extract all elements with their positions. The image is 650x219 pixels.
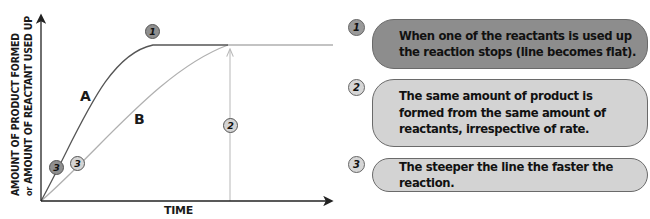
note-2-number-badge: 2 [348,79,365,96]
note-2-text: The same amount of product is formed fro… [372,79,648,147]
marker-2: 2 [223,118,238,133]
y-axis-label: AMOUNT OF PRODUCT FORMED or AMOUNT OF RE… [4,6,40,206]
note-3: 3 The steeper the line the faster the re… [348,158,648,192]
note-1: 1 When one of the reactants is used up t… [348,19,648,69]
y-axis-label-line2: AMOUNT OF REACTANT USED UP [22,16,34,187]
note-3-number-badge: 3 [348,156,365,173]
marker-3-curve-b: 3 [70,156,85,171]
note-3-text: The steeper the line the faster the reac… [372,158,648,192]
marker-3-curve-a: 3 [49,160,64,175]
y-axis-label-line1: AMOUNT OF PRODUCT FORMED [9,16,22,196]
curve-b-label: B [134,111,145,127]
x-axis-label: TIME [164,204,193,217]
note-2: 2 The same amount of product is formed f… [348,79,648,147]
marker-1: 1 [145,24,160,39]
reaction-rate-graph: AMOUNT OF PRODUCT FORMED or AMOUNT OF RE… [0,0,340,219]
curve-a-label: A [80,88,91,104]
note-1-number-badge: 1 [348,19,365,36]
note-1-text: When one of the reactants is used up the… [372,19,648,69]
y-axis-label-or: or [24,187,34,196]
curve-b [41,45,333,201]
graph-canvas [0,0,340,219]
